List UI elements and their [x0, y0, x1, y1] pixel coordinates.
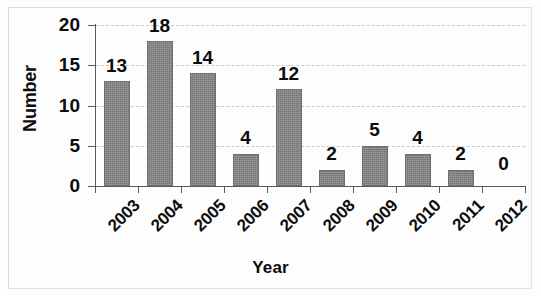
data-label-2004: 18 [137, 15, 183, 37]
data-label-2003: 13 [94, 55, 140, 77]
bar-2004[interactable] [147, 41, 173, 186]
y-tick-20 [88, 25, 96, 26]
data-label-2012: 0 [481, 153, 527, 175]
x-tick-8 [439, 186, 440, 193]
x-tick-0 [95, 186, 96, 193]
bar-2008[interactable] [319, 170, 345, 186]
bar-2003[interactable] [104, 81, 130, 186]
bar-chart-figure: Number 20 15 10 5 0 13 18 14 4 12 2 5 4 [0, 0, 541, 296]
x-tick-3 [224, 186, 225, 193]
data-label-2008: 2 [309, 143, 355, 165]
bar-2006[interactable] [233, 154, 259, 186]
y-tick-label-5: 5 [34, 135, 80, 157]
x-tick-6 [353, 186, 354, 193]
x-tick-1 [138, 186, 139, 193]
x-tick-4 [267, 186, 268, 193]
bar-2007[interactable] [276, 89, 302, 186]
y-tick-label-15: 15 [34, 54, 80, 76]
data-label-2005: 14 [180, 47, 226, 69]
x-tick-5 [310, 186, 311, 193]
y-tick-label-20: 20 [34, 14, 80, 36]
x-tick-10 [525, 186, 526, 193]
data-label-2010: 4 [395, 127, 441, 149]
y-tick-10 [88, 106, 96, 107]
data-label-2007: 12 [266, 63, 312, 85]
y-tick-label-0: 0 [34, 175, 80, 197]
data-label-2006: 4 [223, 127, 269, 149]
bar-2011[interactable] [448, 170, 474, 186]
x-tick-7 [396, 186, 397, 193]
x-tick-2 [181, 186, 182, 193]
bar-2010[interactable] [405, 154, 431, 186]
data-label-2011: 2 [438, 143, 484, 165]
y-tick-5 [88, 146, 96, 147]
bar-2005[interactable] [190, 73, 216, 186]
y-tick-label-10: 10 [34, 95, 80, 117]
x-axis-title: Year [0, 258, 541, 278]
bar-2009[interactable] [362, 146, 388, 186]
data-label-2009: 5 [352, 119, 398, 141]
x-tick-9 [482, 186, 483, 193]
